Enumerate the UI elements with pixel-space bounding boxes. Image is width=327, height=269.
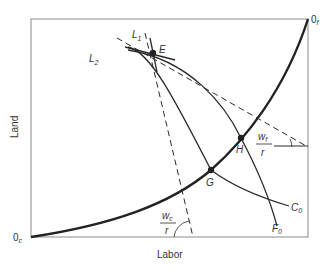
cloth-ratio-num: wc [162,210,173,222]
point-e [150,50,156,56]
f0-label: F0 [272,223,282,235]
cloth-angle-arc [174,221,189,237]
food-ratio-num: wf [258,131,268,143]
edgeworth-box-diagram: L1 L2 E G H C0 F0 wf r wc r 0c 0f Labor … [0,0,327,269]
food-ratio-den: r [261,147,265,158]
food-price-line [117,38,308,147]
origin-cloth: 0c [13,232,23,244]
cloth-ratio-den: r [165,225,169,236]
contract-curve [31,19,308,237]
g-label: G [206,177,214,188]
c0-label: C0 [291,202,302,214]
y-axis-label: Land [9,116,20,138]
origin-food: 0f [311,14,320,26]
box-frame [31,19,308,237]
l2-label: L2 [89,53,99,66]
h-label: H [236,144,244,155]
x-axis-label: Labor [157,249,183,260]
e-label: E [159,44,166,55]
isoquant-f0 [128,50,277,226]
point-h [238,135,244,141]
point-g [208,167,214,173]
l1-label: L1 [132,29,142,42]
